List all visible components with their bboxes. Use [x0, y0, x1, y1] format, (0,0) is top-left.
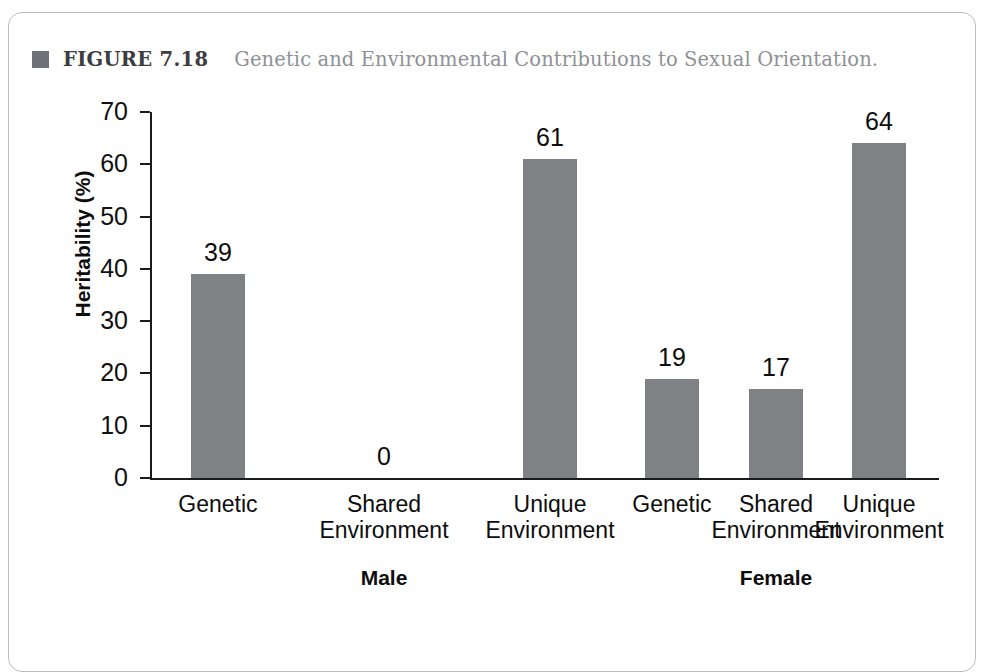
y-axis-tick-mark	[140, 111, 150, 113]
x-axis-category-line: Environment	[294, 518, 474, 544]
x-axis-category-label: Genetic	[128, 492, 308, 518]
bar[interactable]	[852, 143, 906, 478]
bar-value-label: 19	[612, 345, 732, 370]
y-axis-tick-label: 10	[68, 413, 128, 438]
y-axis-tick-label: 60	[68, 151, 128, 176]
y-axis-tick-mark	[140, 477, 150, 479]
x-axis-category-line: Genetic	[128, 492, 308, 518]
x-axis-category-line: Unique	[789, 492, 969, 518]
bar[interactable]	[749, 389, 803, 478]
y-axis-tick-label: 70	[68, 99, 128, 124]
y-axis-tick-mark	[140, 372, 150, 374]
x-axis-category-line: Environment	[460, 518, 640, 544]
x-axis-category-label: UniqueEnvironment	[789, 492, 969, 544]
bar[interactable]	[523, 159, 577, 478]
x-axis-line	[150, 478, 939, 480]
bar[interactable]	[191, 274, 245, 478]
y-axis-tick-mark	[140, 268, 150, 270]
x-axis-category-line: Shared	[294, 492, 474, 518]
y-axis-tick-mark	[140, 216, 150, 218]
bar-value-label: 39	[158, 240, 278, 265]
x-axis-group-label: Female	[656, 566, 896, 590]
bar-value-label: 64	[819, 109, 939, 134]
y-axis-tick-mark	[140, 320, 150, 322]
y-axis-tick-label: 20	[68, 360, 128, 385]
y-axis-tick-label: 0	[68, 465, 128, 490]
y-axis-tick-label: 30	[68, 308, 128, 333]
x-axis-group-label: Male	[264, 566, 504, 590]
bar[interactable]	[645, 379, 699, 478]
y-axis-tick-label: 40	[68, 256, 128, 281]
bar-value-label: 0	[324, 444, 444, 469]
y-axis-tick-label: 50	[68, 204, 128, 229]
y-axis-tick-mark	[140, 163, 150, 165]
y-axis-tick-mark	[140, 425, 150, 427]
bar-value-label: 61	[490, 125, 610, 150]
x-axis-category-label: SharedEnvironment	[294, 492, 474, 544]
bar-value-label: 17	[716, 355, 836, 380]
x-axis-category-line: Environment	[789, 518, 969, 544]
y-axis-line	[150, 112, 152, 480]
